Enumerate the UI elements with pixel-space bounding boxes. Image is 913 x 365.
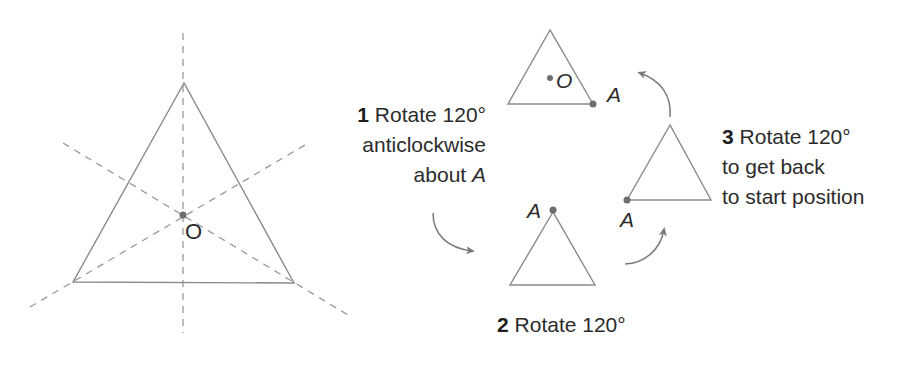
step-three-line-3: to start position bbox=[722, 182, 864, 212]
step-two-text: 2 Rotate 120° bbox=[497, 310, 626, 340]
step-two-number: 2 bbox=[497, 313, 509, 336]
arrow-step-two-icon bbox=[625, 230, 664, 264]
bottom-vertex-label: A bbox=[527, 196, 541, 226]
triangle-step-two bbox=[627, 125, 711, 200]
step-three-number: 3 bbox=[722, 125, 734, 148]
step-one-number: 1 bbox=[357, 103, 369, 126]
large-center-label: O bbox=[185, 217, 202, 247]
step-one-line-2: anticlockwise bbox=[330, 130, 486, 160]
triangle-step-two-vertex-a-dot bbox=[624, 197, 631, 204]
step-one-text: 1 Rotate 120° anticlockwise about A bbox=[330, 100, 486, 190]
triangle-start-center-dot bbox=[547, 75, 553, 81]
arrow-step-three-icon bbox=[640, 73, 670, 117]
triangle-step-one-vertex-a-dot bbox=[550, 207, 557, 214]
triangle-step-one bbox=[510, 212, 595, 285]
symmetry-line-right-diagonal bbox=[63, 143, 348, 315]
right-vertex-label: A bbox=[620, 205, 634, 235]
triangle-start-position bbox=[508, 30, 593, 104]
top-center-label: O bbox=[556, 66, 572, 96]
step-three-text: 3 Rotate 120° to get back to start posit… bbox=[722, 122, 864, 212]
step-three-line-1: 3 Rotate 120° bbox=[722, 122, 864, 152]
top-vertex-label: A bbox=[607, 80, 621, 110]
step-one-line-3: about A bbox=[330, 160, 486, 190]
step-three-line-2: to get back bbox=[722, 152, 864, 182]
triangle-start-vertex-a-dot bbox=[590, 101, 597, 108]
symmetry-lines bbox=[30, 33, 348, 333]
step-one-line-1: 1 Rotate 120° bbox=[330, 100, 486, 130]
arrow-step-one-icon bbox=[433, 213, 472, 251]
